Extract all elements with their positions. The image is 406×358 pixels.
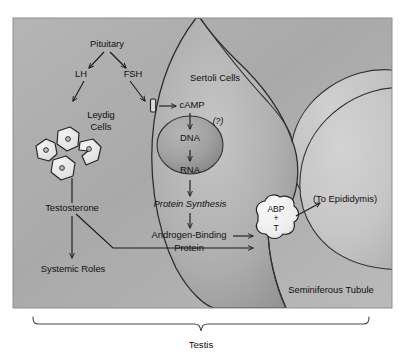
label-question-mark: (?) (213, 116, 224, 126)
label-leydig-line1: Leydig (87, 109, 115, 120)
testis-regulation-diagram: Pituitary LH FSH Leydig Cells Sertoli Ce… (0, 0, 406, 358)
label-lh: LH (75, 68, 87, 79)
label-systemic-roles: Systemic Roles (41, 263, 106, 274)
label-protein-synthesis: Protein Synthesis (154, 198, 227, 209)
label-pituitary: Pituitary (90, 38, 124, 49)
label-abp-plus: + (273, 213, 278, 223)
label-seminiferous-tubule: Seminiferous Tubule (288, 284, 373, 295)
label-sertoli-cells: Sertoli Cells (190, 72, 240, 83)
label-abp-testosterone: T (273, 223, 279, 233)
testis-bracket: Testis (33, 317, 369, 350)
label-dna: DNA (180, 132, 201, 143)
label-camp: cAMP (179, 99, 204, 110)
label-leydig-line2: Cells (91, 121, 112, 132)
figure-caption: Testis (189, 339, 214, 350)
figure-stage: Pituitary LH FSH Leydig Cells Sertoli Ce… (0, 0, 406, 358)
label-to-epididymis: (To Epididymis) (313, 193, 377, 204)
bracket-path (33, 317, 369, 331)
label-fsh: FSH (124, 68, 143, 79)
label-androgen-binding-protein: Protein (174, 242, 204, 253)
label-rna: RNA (180, 164, 201, 175)
label-testosterone: Testosterone (45, 202, 99, 213)
label-androgen-binding: Androgen-Binding (151, 229, 226, 240)
